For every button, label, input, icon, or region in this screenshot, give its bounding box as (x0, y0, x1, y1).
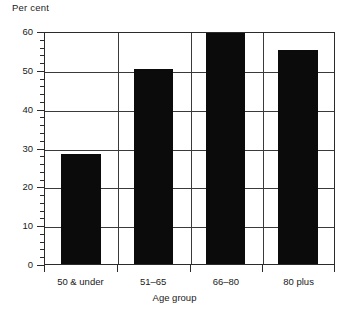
bar-51-65 (134, 69, 174, 264)
x-axis-label-66-80: 66–80 (213, 276, 239, 287)
y-tick-minor (40, 48, 44, 49)
y-tick-minor (40, 86, 44, 87)
y-tick-minor (40, 218, 44, 219)
y-tick-minor (40, 125, 44, 126)
y-tick-minor (40, 164, 44, 165)
y-axis-label: 40 (22, 105, 33, 115)
y-tick-minor (40, 211, 44, 212)
y-tick-minor (40, 180, 44, 181)
bar-66-80 (206, 33, 246, 264)
y-tick-minor (40, 249, 44, 250)
bar-chart: Per cent (0, 0, 349, 315)
y-tick-minor (40, 234, 44, 235)
y-axis-label: 10 (22, 221, 33, 231)
y-tick-minor (40, 63, 44, 64)
y-tick-minor (40, 40, 44, 41)
plot-area (44, 32, 335, 265)
x-axis-label-51-65: 51–65 (140, 276, 166, 287)
y-axis-label: 0 (28, 260, 33, 270)
x-tick-0 (44, 265, 45, 272)
y-axis-label: 20 (22, 182, 33, 192)
y-tick-minor (40, 203, 44, 204)
x-axis-label-80-plus: 80 plus (283, 276, 314, 287)
x-tick-1 (117, 265, 118, 272)
y-tick-10 (37, 226, 44, 227)
y-tick-minor (40, 94, 44, 95)
y-tick-60 (37, 32, 44, 33)
y-tick-minor (40, 195, 44, 196)
y-tick-20 (37, 187, 44, 188)
y-tick-0 (37, 265, 44, 266)
y-axis-label: 60 (22, 27, 33, 37)
y-tick-minor (40, 102, 44, 103)
x-axis-label-50-and-under: 50 & under (57, 276, 103, 287)
y-tick-minor (40, 133, 44, 134)
y-tick-minor (40, 156, 44, 157)
y-axis-label: 50 (22, 66, 33, 76)
y-tick-40 (37, 110, 44, 111)
y-tick-minor (40, 79, 44, 80)
y-axis-label: 30 (22, 144, 33, 154)
y-tick-minor (40, 172, 44, 173)
y-tick-minor (40, 257, 44, 258)
bar-80-plus (278, 50, 318, 264)
x-axis: 50 & under 51–65 66–80 80 plus (44, 265, 335, 295)
bars (45, 33, 334, 264)
y-tick-minor (40, 55, 44, 56)
y-tick-50 (37, 71, 44, 72)
y-axis-title: Per cent (12, 2, 49, 14)
x-tick-2 (190, 265, 191, 272)
x-tick-4 (334, 265, 335, 272)
y-tick-minor (40, 141, 44, 142)
x-tick-3 (262, 265, 263, 272)
y-axis: 60 50 40 30 20 10 0 (0, 32, 44, 265)
bar-50-and-under (61, 154, 101, 264)
y-tick-minor (40, 117, 44, 118)
y-tick-minor (40, 242, 44, 243)
y-tick-30 (37, 149, 44, 150)
x-axis-title: Age group (0, 292, 349, 303)
